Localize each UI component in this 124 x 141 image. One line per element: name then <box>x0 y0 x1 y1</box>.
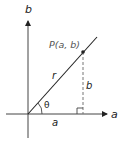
point-label: P(a, b) <box>49 39 80 50</box>
point-p <box>81 50 85 54</box>
vertical-axis-label: b <box>25 3 32 16</box>
radius-label: r <box>52 70 57 81</box>
adjacent-side-label: a <box>52 117 58 128</box>
horizontal-axis-label: a <box>111 108 118 121</box>
angle-arc <box>38 103 42 114</box>
angle-label: θ <box>44 100 50 110</box>
polar-diagram: b a P(a, b) r b a θ <box>0 0 124 141</box>
right-angle-marker <box>77 108 83 114</box>
opposite-side-label: b <box>86 80 92 91</box>
